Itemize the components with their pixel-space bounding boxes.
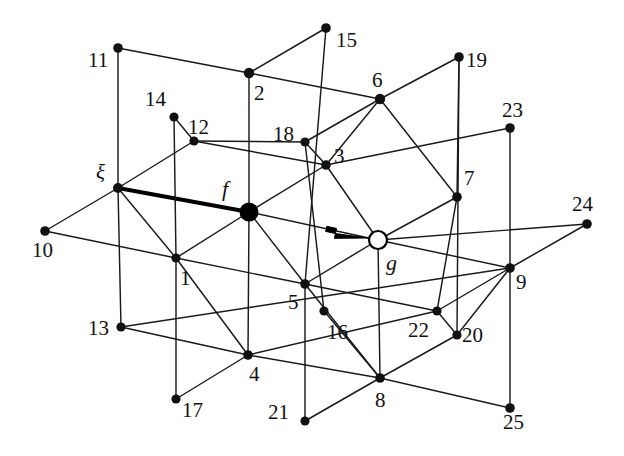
lattice-node-n23	[505, 123, 515, 133]
lattice-edge	[176, 355, 248, 399]
node-label-n24: 24	[572, 194, 593, 215]
node-label-g: g	[386, 252, 397, 274]
lattice-node-n14	[169, 112, 178, 121]
lattice-edge	[305, 28, 326, 284]
lattice-node-xi	[113, 183, 123, 193]
lattice-node-g	[369, 231, 387, 249]
lattice-node-n24	[582, 219, 592, 229]
lattice-edge	[378, 240, 510, 268]
node-label-n4: 4	[249, 364, 260, 385]
node-label-f: f	[222, 178, 228, 200]
lattice-edge	[378, 224, 587, 240]
lattice-node-n16	[319, 306, 328, 315]
lattice-edge	[437, 197, 457, 311]
lattice-node-n7	[452, 192, 462, 202]
lattice-edge	[45, 188, 118, 231]
lattice-node-n1	[171, 253, 180, 262]
lattice-edge	[118, 141, 194, 188]
lattice-node-n2	[244, 68, 254, 78]
node-label-n14: 14	[145, 89, 166, 110]
lattice-edge	[510, 224, 587, 268]
lattice-edge	[305, 99, 380, 142]
lattice-node-n18	[300, 137, 309, 146]
node-label-n11: 11	[88, 50, 108, 71]
lattice-edge	[249, 28, 326, 73]
lattice-node-n10	[40, 226, 50, 236]
lattice-edge	[437, 311, 457, 335]
lattice-edge	[378, 197, 457, 240]
node-label-n22: 22	[408, 320, 429, 341]
lattice-edge	[118, 188, 121, 327]
node-label-n18: 18	[273, 124, 294, 145]
lattice-node-n17	[171, 394, 180, 403]
lattice-edge	[305, 378, 380, 421]
node-label-n20: 20	[462, 325, 483, 346]
node-label-n25: 25	[503, 412, 524, 433]
edges-group	[45, 28, 587, 421]
node-label-n6: 6	[372, 70, 383, 91]
lattice-node-f	[240, 203, 259, 222]
lattice-node-n3	[321, 160, 331, 170]
lattice-node-n13	[116, 322, 125, 331]
lattice-node-n8	[375, 373, 385, 383]
node-label-n17: 17	[182, 400, 203, 421]
node-label-n8: 8	[375, 390, 386, 411]
lattice-edge	[176, 212, 249, 258]
lattice-edge	[437, 268, 510, 311]
lattice-node-n4	[243, 350, 253, 360]
lattice-figure: ξfg1234567891011121314151617181920212223…	[0, 0, 624, 456]
bold-edge	[118, 188, 249, 212]
node-label-n7: 7	[464, 168, 475, 189]
lattice-edge	[380, 378, 510, 408]
node-label-n10: 10	[32, 240, 53, 261]
lattice-edge	[248, 212, 249, 355]
lattice-edge	[121, 327, 248, 355]
lattice-node-n5	[300, 279, 310, 289]
node-label-n1: 1	[180, 268, 191, 289]
lattice-node-n9	[505, 263, 515, 273]
lattice-node-n15	[321, 23, 331, 33]
lattice-edge	[378, 240, 380, 378]
node-label-n13: 13	[88, 318, 109, 339]
node-label-n5: 5	[288, 292, 299, 313]
node-label-n19: 19	[466, 50, 487, 71]
lattice-edge	[176, 258, 305, 284]
lattice-edge	[380, 99, 457, 197]
lattice-edge	[118, 48, 249, 73]
lattice-node-n20	[452, 330, 461, 339]
node-label-n3: 3	[334, 146, 345, 167]
lattice-edge	[174, 117, 176, 258]
lattice-node-n6	[375, 94, 385, 104]
nodes-group	[40, 23, 592, 425]
node-label-n9: 9	[516, 272, 527, 293]
lattice-edge	[248, 355, 380, 378]
node-label-n16: 16	[327, 322, 348, 343]
node-label-n15: 15	[336, 30, 357, 51]
node-label-n2: 2	[254, 83, 265, 104]
lattice-node-n19	[454, 52, 464, 62]
node-label-n21: 21	[268, 402, 289, 423]
lattice-node-n11	[113, 43, 123, 53]
node-label-xi: ξ	[96, 162, 105, 183]
lattice-edge	[249, 73, 380, 99]
lattice-node-n21	[300, 416, 309, 425]
lattice-edge	[380, 57, 459, 99]
lattice-edge	[305, 240, 378, 284]
node-label-n23: 23	[502, 100, 523, 121]
node-label-n12: 12	[188, 117, 209, 138]
lattice-node-n22	[432, 306, 441, 315]
